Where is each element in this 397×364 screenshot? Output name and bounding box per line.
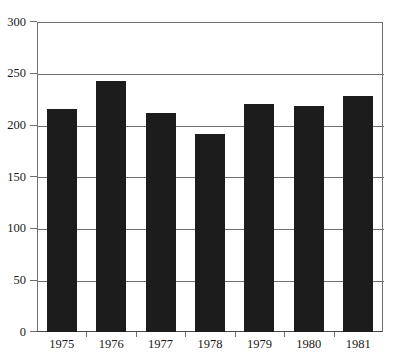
y-tick-label-300: 300 — [7, 16, 26, 29]
bar-1975 — [47, 109, 77, 332]
y-tick-mark-50 — [30, 280, 37, 281]
x-tick-mark-5 — [284, 332, 285, 337]
y-tick-label-0: 0 — [20, 326, 26, 339]
bar-1981 — [343, 96, 373, 332]
x-tick-label-1980: 1980 — [285, 338, 333, 351]
y-tick-mark-300 — [30, 21, 37, 22]
x-tick-label-1975: 1975 — [38, 338, 86, 351]
y-tick-mark-100 — [30, 228, 37, 229]
x-tick-mark-6 — [334, 332, 335, 337]
y-tick-label-150: 150 — [7, 171, 26, 184]
y-tick-label-200: 200 — [7, 119, 26, 132]
x-tick-label-1981: 1981 — [334, 338, 382, 351]
x-tick-mark-1 — [86, 332, 87, 337]
x-tick-mark-4 — [235, 332, 236, 337]
x-tick-label-1978: 1978 — [186, 338, 234, 351]
y-axis: 050100150200250300 — [0, 0, 37, 364]
y-tick-mark-250 — [30, 73, 37, 74]
y-tick-label-100: 100 — [7, 222, 26, 235]
x-tick-label-1977: 1977 — [137, 338, 185, 351]
bar-1980 — [294, 106, 324, 332]
bar-chart: 050100150200250300 197519761977197819791… — [0, 0, 397, 364]
bar-1977 — [146, 113, 176, 332]
x-tick-mark-3 — [185, 332, 186, 337]
bar-1978 — [195, 134, 225, 332]
y-tick-label-250: 250 — [7, 67, 26, 80]
y-tick-mark-200 — [30, 125, 37, 126]
x-axis: 1975197619771978197919801981 — [37, 338, 383, 364]
y-tick-label-50: 50 — [14, 274, 27, 287]
x-tick-label-1976: 1976 — [87, 338, 135, 351]
x-tick-label-1979: 1979 — [235, 338, 283, 351]
y-tick-mark-150 — [30, 176, 37, 177]
bars-layer — [37, 22, 383, 332]
x-tick-mark-2 — [136, 332, 137, 337]
bar-1979 — [244, 104, 274, 332]
y-tick-mark-0 — [30, 331, 37, 332]
bar-1976 — [96, 81, 126, 332]
